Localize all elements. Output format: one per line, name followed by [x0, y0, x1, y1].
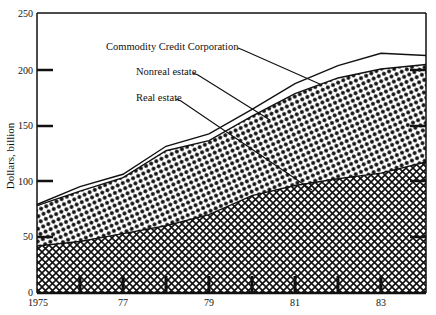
x-tick-1975: 1975 — [28, 297, 48, 308]
y-tick-200: 200 — [18, 65, 33, 76]
x-tick-81: 81 — [290, 297, 300, 308]
y-tick-100: 100 — [18, 176, 33, 187]
y-tick-50: 50 — [23, 231, 33, 242]
annotations: Commodity Credit Corporation Nonreal est… — [106, 41, 239, 103]
annotation-real: Real estate — [136, 92, 182, 103]
x-tick-labels: 1975 77 79 81 83 — [28, 297, 386, 308]
plot-areas — [37, 53, 426, 293]
y-tick-labels: 0 50 100 150 200 250 — [18, 8, 33, 298]
y-tick-250: 250 — [18, 8, 33, 19]
x-tick-77: 77 — [118, 297, 128, 308]
annotation-ccc: Commodity Credit Corporation — [106, 41, 239, 52]
y-tick-150: 150 — [18, 120, 33, 131]
x-tick-83: 83 — [376, 297, 386, 308]
y-axis-label: Dollars, billion — [4, 122, 16, 189]
stacked-area-chart: 0 50 100 150 200 250 1975 77 79 81 83 Do… — [0, 0, 436, 315]
annotation-nonreal: Nonreal estate — [136, 66, 197, 77]
x-tick-79: 79 — [204, 297, 214, 308]
